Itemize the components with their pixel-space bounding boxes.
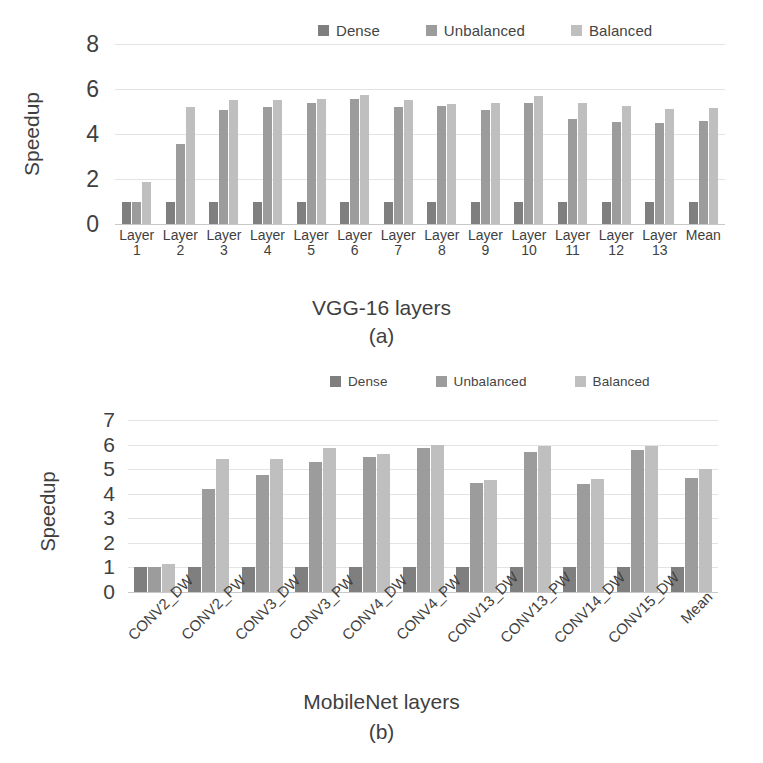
y-tick-label: 3 <box>103 506 128 530</box>
bar-group <box>202 44 246 224</box>
x-axis-title-a: VGG-16 layers <box>0 296 763 320</box>
legend-label-balanced: Balanced <box>589 22 652 39</box>
bar-unbalanced <box>309 462 322 592</box>
bar-group <box>594 44 638 224</box>
bar-balanced <box>534 96 543 224</box>
bar-dense <box>514 202 523 225</box>
bar-balanced <box>270 459 283 592</box>
caption-b: (b) <box>0 720 763 744</box>
bar-balanced <box>216 459 229 592</box>
bar-balanced <box>665 109 674 224</box>
bar-balanced <box>491 103 500 225</box>
bar-unbalanced <box>394 107 403 224</box>
bar-unbalanced <box>568 119 577 224</box>
bar-group <box>638 44 682 224</box>
x-tick-label: Layer2 <box>159 228 203 258</box>
bar-unbalanced <box>132 202 141 225</box>
bar-group <box>333 44 377 224</box>
bar-unbalanced <box>631 450 644 593</box>
bar-balanced <box>360 95 369 224</box>
legend-label-dense: Dense <box>348 374 388 389</box>
bar-group <box>289 44 333 224</box>
bar-unbalanced <box>524 103 533 225</box>
legend-label-dense: Dense <box>336 22 380 39</box>
plot-area-b: 01234567 <box>128 420 718 592</box>
x-tick-label: Layer5 <box>289 228 333 258</box>
bar-group <box>464 44 508 224</box>
bar-unbalanced <box>699 121 708 225</box>
bar-balanced <box>186 107 195 224</box>
bar-dense <box>471 202 480 225</box>
y-tick-label: 0 <box>86 211 115 238</box>
legend-swatch-dense <box>330 376 341 387</box>
bar-balanced <box>578 103 587 225</box>
bar-dense <box>209 202 218 225</box>
bar-group <box>343 420 397 592</box>
x-tick-label: Layer7 <box>376 228 420 258</box>
bar-balanced <box>645 446 658 592</box>
bar-group <box>420 44 464 224</box>
y-axis-title-a: Speedup <box>20 64 44 204</box>
bar-dense <box>645 202 654 225</box>
x-tick-label: Layer8 <box>420 228 464 258</box>
y-tick-label: 2 <box>86 166 115 193</box>
x-tick-label: Layer9 <box>464 228 508 258</box>
bar-dense <box>689 202 698 225</box>
bar-balanced <box>591 479 604 592</box>
bar-unbalanced <box>176 144 185 224</box>
bar-unbalanced <box>524 452 537 592</box>
x-axis-title-b: MobileNet layers <box>0 690 763 714</box>
y-axis-title-b: Speedup <box>37 442 60 582</box>
legend-entry-balanced: Balanced <box>571 22 652 39</box>
bar-group <box>376 44 420 224</box>
legend-label-balanced: Balanced <box>593 374 650 389</box>
y-tick-label: 0 <box>103 580 128 604</box>
x-tick-label: Layer4 <box>246 228 290 258</box>
bar-group <box>235 420 289 592</box>
x-tick-label: Layer1 <box>115 228 159 258</box>
bar-group <box>664 420 718 592</box>
y-tick-label: 1 <box>103 555 128 579</box>
bar-balanced <box>622 106 631 224</box>
bar-balanced <box>538 446 551 592</box>
x-axis-line <box>115 224 725 225</box>
bar-dense <box>134 567 147 592</box>
legend-entry-dense: Dense <box>318 22 380 39</box>
bar-unbalanced <box>256 475 269 592</box>
legend-entry-balanced: Balanced <box>575 374 650 389</box>
figure-a-vgg16: Dense Unbalanced Balanced Speedup 02468 … <box>0 0 763 352</box>
caption-a: (a) <box>0 324 763 348</box>
x-tick-label: Layer13 <box>638 228 682 258</box>
bar-unbalanced <box>307 103 316 225</box>
bar-dense <box>297 202 306 225</box>
bar-unbalanced <box>202 489 215 592</box>
bar-group <box>159 44 203 224</box>
bar-unbalanced <box>148 567 161 592</box>
bar-dense <box>602 202 611 225</box>
bar-unbalanced <box>612 122 621 224</box>
bar-dense <box>427 202 436 225</box>
bar-balanced <box>323 448 336 592</box>
legend-swatch-dense <box>318 25 329 36</box>
y-tick-label: 8 <box>86 31 115 58</box>
bar-dense <box>122 202 131 225</box>
y-tick-label: 7 <box>103 408 128 432</box>
x-tick-label: Layer10 <box>507 228 551 258</box>
bar-balanced <box>229 100 238 224</box>
bar-balanced <box>431 445 444 592</box>
bar-dense <box>340 202 349 225</box>
legend-label-unbalanced: Unbalanced <box>454 374 527 389</box>
bar-unbalanced <box>263 107 272 224</box>
x-tick-label: Layer12 <box>594 228 638 258</box>
y-tick-label: 6 <box>103 433 128 457</box>
x-tick-label: Layer11 <box>551 228 595 258</box>
legend-entry-dense: Dense <box>330 374 388 389</box>
y-tick-label: 4 <box>86 121 115 148</box>
bar-group <box>611 420 665 592</box>
bar-unbalanced <box>655 123 664 224</box>
bar-unbalanced <box>219 110 228 224</box>
x-tick-label: Layer3 <box>202 228 246 258</box>
bar-balanced <box>273 100 282 224</box>
y-tick-label: 2 <box>103 531 128 555</box>
bar-unbalanced <box>350 99 359 224</box>
